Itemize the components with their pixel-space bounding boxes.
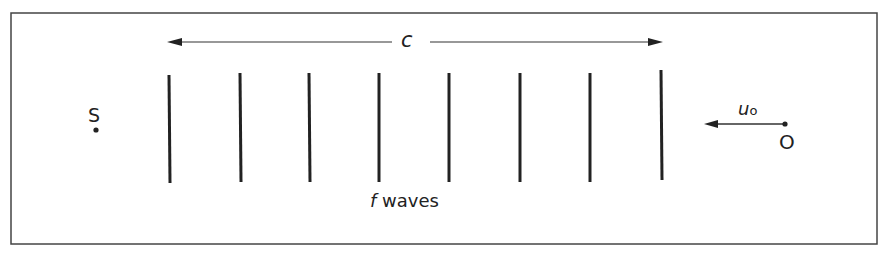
wavefront-1 (169, 75, 170, 183)
observer-velocity-arrow (704, 120, 788, 128)
observer-point (782, 121, 787, 126)
wavefronts (169, 70, 662, 183)
velocity-subscript: o (749, 103, 757, 118)
wavefront-2 (240, 73, 241, 182)
wavefront-3 (309, 73, 310, 182)
waves-label: f waves (370, 190, 439, 211)
doppler-diagram (0, 0, 887, 255)
source-point (93, 127, 98, 132)
wave-speed-arrow (167, 38, 663, 46)
frame-border (11, 13, 877, 244)
velocity-symbol: u (738, 98, 749, 119)
wavefront-8 (661, 70, 662, 180)
wave-speed-label: c (401, 28, 413, 52)
source-label: S (88, 104, 100, 126)
observer-velocity-label: uo (738, 98, 757, 119)
observer-label: O (779, 130, 795, 154)
waves-text: waves (376, 190, 439, 211)
